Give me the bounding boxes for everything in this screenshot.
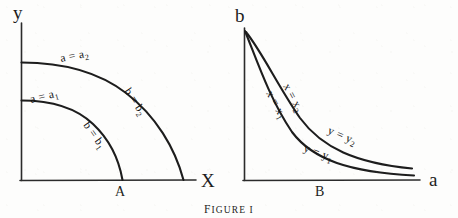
panel-A-x-axis [20,180,196,181]
panel-A-y-axis-label: y [13,2,23,23]
panel-B-x-axis-label: a [429,169,438,190]
panel-A-outer-a-label: a = a2 [59,47,90,67]
panel-A-inner-b-label-group: b = b1 [79,119,109,152]
panel-A-x-axis-label: X [201,170,215,191]
figure-drawing: y X A a = a2 b = b2 a = a1 b = b1 [0,0,458,218]
panel-A-origin-tick-label: A [115,184,126,199]
panel-A-group: y X A a = a2 b = b2 a = a1 b = b1 [13,2,215,199]
figure-container: y X A a = a2 b = b2 a = a1 b = b1 [0,0,458,218]
panel-A-outer-curve [22,63,184,181]
panel-B-x-axis [243,180,420,181]
figure-caption: Figure I [0,203,458,215]
panel-A-outer-a-label-group: a = a2 [59,47,90,67]
panel-A-inner-b-label: b = b1 [79,119,109,152]
panel-B-origin-tick-label: B [315,184,324,199]
panel-B-group: b a B x = x2 x = x1 y = y2 y = y1 [235,5,438,199]
panel-A-outer-b-label: b = b2 [120,86,149,119]
figure-caption-rest: igure I [212,205,254,215]
panel-A-inner-curve [22,101,123,181]
panel-A-outer-b-label-group: b = b2 [120,86,149,119]
panel-B-y-axis-label: b [235,5,245,26]
figure-caption-initial: F [204,203,212,215]
